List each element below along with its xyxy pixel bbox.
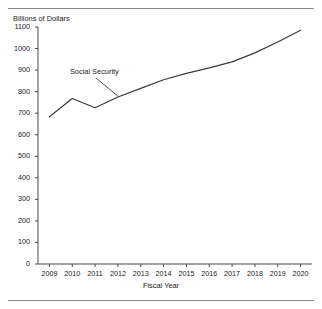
y-tick-label: 300 <box>4 195 30 202</box>
axes <box>35 27 312 267</box>
x-tick-label: 2020 <box>286 270 316 277</box>
y-tick-label: 900 <box>4 66 30 73</box>
y-tick-label: 500 <box>4 152 30 159</box>
y-tick-label: 800 <box>4 88 30 95</box>
y-tick-label: 1000 <box>4 45 30 52</box>
top-divider-rule <box>8 8 314 9</box>
plot-area <box>0 0 322 309</box>
y-tick-label: 700 <box>4 109 30 116</box>
x-axis-title: Fiscal Year <box>0 281 322 290</box>
chart-figure: Billions of Dollars Social Security 0100… <box>0 0 322 309</box>
series-annotation-label: Social Security <box>70 67 119 76</box>
y-tick-label: 400 <box>4 174 30 181</box>
y-tick-label: 600 <box>4 131 30 138</box>
bottom-divider-rule <box>8 300 314 301</box>
annotation-leader-line <box>96 78 118 96</box>
clipped-header-text <box>10 0 310 6</box>
y-tick-label: 0 <box>4 260 30 267</box>
y-tick-label: 100 <box>4 238 30 245</box>
y-tick-label: 200 <box>4 217 30 224</box>
y-tick-label: 1100 <box>4 23 30 30</box>
